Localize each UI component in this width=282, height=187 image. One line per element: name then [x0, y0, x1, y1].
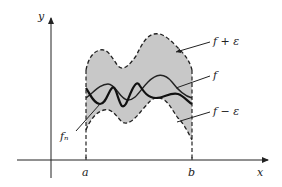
lower-band-label: f − ε	[212, 105, 239, 118]
b-label: b	[188, 166, 195, 179]
upper-band-label: f + ε	[212, 35, 239, 48]
approximant-label: fₙ	[59, 130, 69, 143]
epsilon-band-diagram: y x a b f + ε f f − ε fₙ	[0, 0, 282, 187]
a-label: a	[82, 166, 89, 179]
function-label: f	[212, 69, 219, 82]
x-axis-label: x	[257, 166, 264, 179]
y-axis-label: y	[37, 10, 45, 23]
upper-band-leader	[176, 42, 210, 52]
